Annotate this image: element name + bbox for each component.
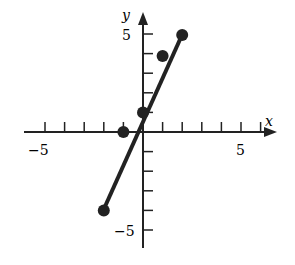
data-point [137,106,149,118]
data-point [176,29,188,41]
data-point [157,50,169,62]
y-tick-label: −5 [114,223,135,239]
x-label: x [265,113,273,129]
y-tick-label: 5 [122,27,131,43]
coordinate-plot: x y −5 5 5 −5 [0,0,295,265]
data-point [98,204,110,216]
data-point [117,126,129,138]
x-tick-label: 5 [236,142,245,158]
y-arrow-icon [138,12,148,25]
x-tick-label: −5 [28,142,49,158]
y-label: y [121,7,131,23]
